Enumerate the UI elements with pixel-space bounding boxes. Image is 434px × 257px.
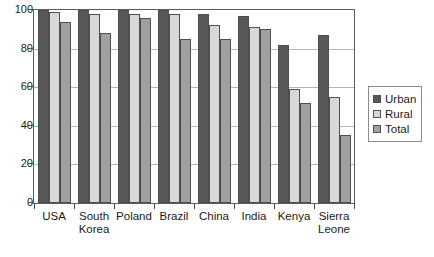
bar-rural — [329, 97, 340, 203]
legend-item: Urban — [373, 92, 416, 106]
x-axis-tick-mark — [194, 204, 195, 209]
legend-label: Urban — [385, 93, 416, 105]
legend-label: Rural — [385, 108, 412, 120]
bar-urban — [238, 16, 249, 203]
bar-total — [140, 18, 151, 203]
legend-item: Rural — [373, 107, 416, 121]
bar-urban — [158, 10, 169, 203]
x-axis-tick-mark — [274, 204, 275, 209]
bar-chart: 020406080100 USASouthKoreaPolandBrazilCh… — [0, 0, 434, 257]
bar-rural — [249, 27, 260, 203]
x-axis-category-label: SierraLeone — [308, 210, 360, 235]
bar-total — [260, 29, 271, 203]
bar-rural — [129, 14, 140, 203]
bar-group — [78, 10, 111, 203]
bar-group — [38, 10, 71, 203]
bar-total — [180, 39, 191, 203]
bar-total — [300, 103, 311, 203]
legend-label: Total — [385, 123, 409, 135]
bars-layer — [34, 10, 354, 203]
bar-urban — [198, 14, 209, 203]
x-axis-category-label-line: Leone — [308, 223, 360, 236]
x-axis-tick-mark — [34, 204, 35, 209]
x-axis-tick-mark — [74, 204, 75, 209]
bar-rural — [89, 14, 100, 203]
bar-group — [158, 10, 191, 203]
bar-group — [318, 10, 351, 203]
x-axis-tick-mark — [314, 204, 315, 209]
bar-total — [100, 33, 111, 203]
bar-urban — [78, 10, 89, 203]
legend-swatch-icon — [373, 125, 381, 133]
bar-total — [220, 39, 231, 203]
bar-group — [118, 10, 151, 203]
bar-urban — [38, 10, 49, 203]
bar-group — [278, 10, 311, 203]
legend: UrbanRuralTotal — [368, 86, 422, 142]
bar-rural — [49, 12, 60, 203]
x-axis-tick-mark — [354, 204, 355, 209]
bar-total — [340, 135, 351, 203]
bar-group — [238, 10, 271, 203]
x-axis-tick-mark — [114, 204, 115, 209]
bar-urban — [278, 45, 289, 203]
x-axis-category-label-line: Korea — [68, 223, 120, 236]
legend-item: Total — [373, 122, 416, 136]
bar-rural — [289, 89, 300, 203]
bar-urban — [118, 10, 129, 203]
bar-total — [60, 22, 71, 203]
legend-swatch-icon — [373, 110, 381, 118]
bar-rural — [169, 14, 180, 203]
x-axis-category-label-line: Sierra — [308, 210, 360, 223]
x-axis-tick-mark — [154, 204, 155, 209]
y-axis: 020406080100 — [0, 9, 33, 204]
bar-group — [198, 10, 231, 203]
x-axis-tick-mark — [234, 204, 235, 209]
legend-swatch-icon — [373, 95, 381, 103]
bar-urban — [318, 35, 329, 203]
bar-rural — [209, 25, 220, 203]
